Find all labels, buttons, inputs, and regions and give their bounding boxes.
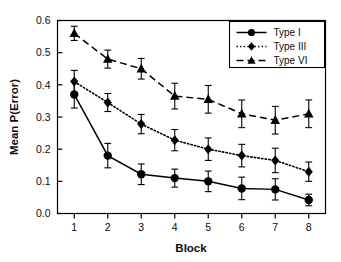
- circle-marker: [305, 196, 313, 204]
- circle-marker: [248, 29, 255, 36]
- x-tick-label: 4: [172, 221, 178, 233]
- y-tick-label: 0.4: [36, 79, 51, 91]
- line-chart: 0.00.10.20.30.40.50.6 12345678 Block Mea…: [0, 0, 341, 262]
- y-tick-label: 0.1: [36, 175, 51, 187]
- circle-marker: [204, 177, 212, 185]
- x-tick-label: 2: [105, 221, 111, 233]
- x-tick-label: 1: [71, 221, 77, 233]
- x-tick-label: 5: [205, 221, 211, 233]
- y-tick-label: 0.2: [36, 143, 51, 155]
- chart-legend: Type IType IIIType VI: [230, 22, 325, 68]
- x-axis-title: Block: [175, 242, 207, 254]
- circle-marker: [238, 184, 246, 192]
- y-tick-label: 0.0: [36, 207, 51, 219]
- legend-label: Type VI: [274, 55, 308, 66]
- x-tick-label: 7: [272, 221, 278, 233]
- y-axis-title: Mean P(Error): [8, 79, 20, 155]
- legend-label: Type I: [274, 27, 301, 38]
- circle-marker: [271, 185, 279, 193]
- x-tick-label: 8: [306, 221, 312, 233]
- circle-marker: [104, 151, 112, 159]
- legend-label: Type III: [274, 41, 307, 52]
- x-tick-label: 6: [239, 221, 245, 233]
- y-tick-label: 0.6: [36, 14, 51, 26]
- y-tick-label: 0.5: [36, 46, 51, 58]
- circle-marker: [137, 170, 145, 178]
- x-tick-label: 3: [138, 221, 144, 233]
- y-tick-label: 0.3: [36, 111, 51, 123]
- circle-marker: [171, 174, 179, 182]
- chart-figure: 0.00.10.20.30.40.50.6 12345678 Block Mea…: [0, 0, 341, 262]
